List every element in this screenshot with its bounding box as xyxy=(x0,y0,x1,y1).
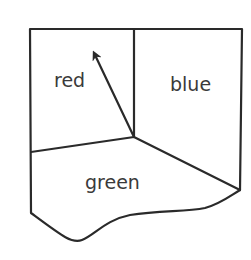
region-diagram: red blue green xyxy=(0,0,251,260)
divider-red-green xyxy=(31,137,134,152)
outer-boundary xyxy=(30,29,242,241)
arrow-icon xyxy=(95,55,134,137)
label-blue: blue xyxy=(170,73,211,95)
label-red: red xyxy=(54,69,85,91)
divider-blue-green xyxy=(134,137,240,190)
label-green: green xyxy=(85,171,140,193)
